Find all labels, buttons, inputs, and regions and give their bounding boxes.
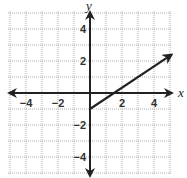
series-line (90, 55, 172, 109)
axes (9, 12, 172, 176)
x-tick-label: 4 (151, 97, 158, 109)
coordinate-plane: −4−22442−2−4 x y (0, 0, 187, 178)
y-tick-label: −2 (73, 119, 86, 131)
x-tick-label: 2 (119, 97, 125, 109)
y-tick-label: −4 (73, 151, 86, 163)
x-axis-label: x (177, 85, 184, 100)
series (90, 55, 172, 109)
y-tick-label: 2 (80, 55, 86, 67)
y-tick-label: 4 (80, 23, 87, 35)
x-tick-label: −2 (52, 97, 65, 109)
x-tick-label: −4 (20, 97, 33, 109)
y-axis-label: y (84, 0, 92, 13)
